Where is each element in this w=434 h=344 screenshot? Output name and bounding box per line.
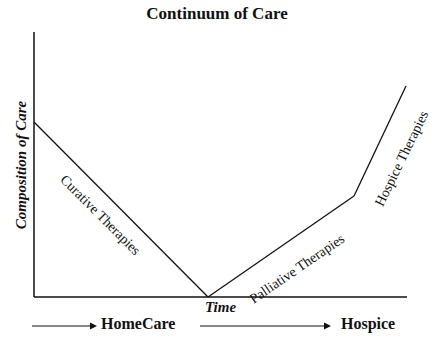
- y-axis-label: Composition of Care: [13, 101, 30, 229]
- x-axis-label: Time: [205, 299, 236, 316]
- hospice-arrowhead: [324, 323, 331, 330]
- stage-homecare: HomeCare: [101, 315, 175, 333]
- stage-hospice: Hospice: [341, 315, 395, 333]
- homecare-arrowhead: [90, 323, 97, 330]
- diagram-canvas: [0, 0, 434, 344]
- curative-line: [34, 122, 208, 297]
